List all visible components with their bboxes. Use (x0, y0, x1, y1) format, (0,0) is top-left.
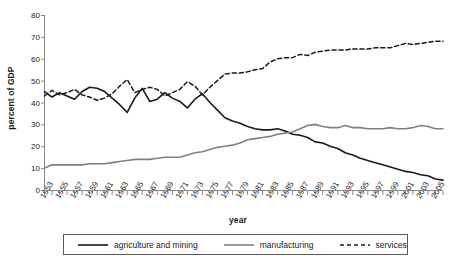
legend-item-services: services (340, 240, 407, 250)
x-tick-label: 1977 (219, 180, 236, 200)
legend-label-manufacturing: manufacturing (260, 240, 314, 250)
series-line-manufacturing (45, 124, 444, 168)
x-tick-label: 1999 (384, 180, 401, 200)
data-series-group (45, 41, 444, 180)
x-tick-label: 1957 (69, 180, 86, 200)
x-tick-label: 2005 (429, 180, 446, 200)
x-tick-label: 1967 (144, 180, 161, 200)
x-tick-label: 1975 (204, 180, 221, 200)
x-tick-label: 1953 (38, 180, 55, 200)
y-tick-label: 60 (31, 55, 40, 64)
x-tick-label: 1981 (249, 180, 266, 200)
x-tick-label: 2001 (399, 180, 416, 200)
x-tick-label: 1959 (84, 180, 101, 200)
legend-label-agriculture-and-mining: agriculture and mining (114, 240, 198, 250)
legend-label-services: services (376, 240, 407, 250)
x-tick-label: 1993 (339, 180, 356, 200)
x-tick-label: 1969 (159, 180, 176, 200)
gdp-sector-composition-chart: percent of GDP year 01020304050607080 19… (0, 0, 459, 263)
legend-item-agriculture-and-mining: agriculture and mining (78, 240, 198, 250)
x-tick-label: 1997 (369, 180, 386, 200)
x-tick-label: 1989 (309, 180, 326, 200)
y-axis-tick-labels: 01020304050607080 (31, 11, 40, 195)
y-axis-tick-marks (41, 16, 45, 191)
chart-legend: agriculture and mining manufacturing ser… (63, 234, 408, 255)
x-tick-label: 1973 (189, 180, 206, 200)
x-tick-label: 1983 (264, 180, 281, 200)
legend-item-manufacturing: manufacturing (224, 240, 314, 250)
x-tick-label: 1979 (234, 180, 251, 200)
x-tick-label: 1963 (114, 180, 131, 200)
y-tick-label: 10 (31, 164, 40, 173)
x-tick-label: 1995 (354, 180, 371, 200)
y-tick-label: 40 (31, 99, 40, 108)
y-tick-label: 70 (31, 33, 40, 42)
y-tick-label: 50 (31, 77, 40, 86)
x-tick-label: 2003 (414, 180, 431, 200)
x-tick-label: 1985 (279, 180, 296, 200)
x-tick-label: 1955 (53, 180, 70, 200)
x-axis-tick-labels: 1953195519571959196119631965196719691971… (38, 180, 446, 200)
y-tick-label: 20 (31, 142, 40, 151)
x-tick-label: 1987 (294, 180, 311, 200)
plot-area: 01020304050607080 1953195519571959196119… (0, 0, 459, 232)
series-line-agriculture-and-mining (45, 87, 444, 180)
x-tick-label: 1961 (99, 180, 116, 200)
legend-swatch-dashed-icon (340, 241, 370, 249)
x-tick-label: 1971 (174, 180, 191, 200)
x-tick-label: 1991 (324, 180, 341, 200)
legend-swatch-solid-gray-icon (224, 241, 254, 249)
y-tick-label: 80 (31, 11, 40, 20)
x-tick-label: 1965 (129, 180, 146, 200)
y-tick-label: 30 (31, 120, 40, 129)
legend-swatch-solid-black-icon (78, 241, 108, 249)
